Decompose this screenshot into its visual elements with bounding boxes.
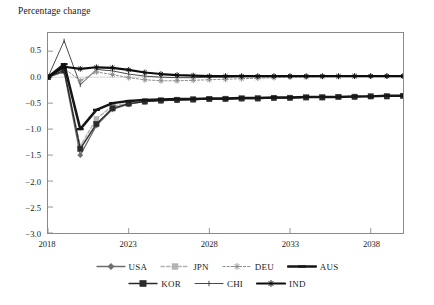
data-point-marker xyxy=(206,97,213,99)
legend-item-ind[interactable]: IND xyxy=(256,278,306,289)
data-point-marker xyxy=(142,70,148,76)
data-point-marker xyxy=(336,73,342,79)
y-axis-tick-labels: 0.50.0−0.5−1.0−1.5−2.0−2.5−3.0 xyxy=(0,32,41,234)
x-axis-tick-label: 2023 xyxy=(120,239,137,249)
data-point-marker xyxy=(298,265,306,267)
y-axis-tick-label: −2.0 xyxy=(25,177,41,187)
data-point-marker xyxy=(351,95,358,97)
data-point-marker xyxy=(319,73,325,79)
legend-row-1: USAJPNDEUAUS xyxy=(0,258,434,275)
legend-label: IND xyxy=(289,279,306,289)
legend-label: AUS xyxy=(320,262,339,272)
data-point-marker xyxy=(158,78,164,84)
x-axis-tick-labels: 20182023202820332038 xyxy=(47,239,404,253)
data-point-marker xyxy=(110,72,116,78)
data-point-marker xyxy=(174,98,181,100)
legend-swatch-ind xyxy=(256,278,286,289)
data-point-marker xyxy=(222,97,229,99)
legend-label: USA xyxy=(129,262,148,272)
data-point-marker xyxy=(367,95,374,97)
data-point-marker xyxy=(107,263,113,269)
data-point-marker xyxy=(303,73,309,79)
x-axis-tick-label: 2028 xyxy=(201,239,218,249)
legend-swatch-aus xyxy=(287,261,317,272)
chart-figure: Percentage change 0.50.0−0.5−1.0−1.5−2.0… xyxy=(0,0,434,305)
data-point-marker xyxy=(268,280,275,287)
y-axis-tick-label: −0.5 xyxy=(25,98,41,108)
legend-swatch-chi xyxy=(194,278,224,289)
data-point-marker xyxy=(287,73,293,79)
data-point-marker xyxy=(319,96,326,98)
legend-item-usa[interactable]: USA xyxy=(96,261,148,272)
legend-label: JPN xyxy=(193,262,209,272)
legend-item-aus[interactable]: AUS xyxy=(287,261,339,272)
data-point-marker xyxy=(190,98,197,100)
data-point-marker xyxy=(78,146,83,151)
data-point-marker xyxy=(140,280,146,286)
data-point-marker xyxy=(206,73,212,79)
data-point-marker xyxy=(142,77,148,83)
legend-swatch-deu xyxy=(222,261,252,272)
data-point-marker xyxy=(352,73,358,79)
data-point-marker xyxy=(303,96,310,98)
legend-swatch-jpn xyxy=(160,261,190,272)
data-point-marker xyxy=(233,263,240,270)
data-point-marker xyxy=(93,109,100,111)
series-usa xyxy=(48,69,403,157)
data-point-marker xyxy=(223,73,229,79)
legend-label: DEU xyxy=(255,262,274,272)
data-point-marker xyxy=(110,106,115,111)
data-point-marker xyxy=(400,73,403,79)
legend-item-deu[interactable]: DEU xyxy=(222,261,274,272)
data-point-marker xyxy=(94,116,99,121)
data-point-marker xyxy=(239,73,245,79)
legend-label: CHI xyxy=(227,279,243,289)
x-axis-tick-label: 2038 xyxy=(363,239,380,249)
data-point-marker xyxy=(78,152,83,157)
data-point-marker xyxy=(190,73,196,79)
y-axis-tick-label: −1.5 xyxy=(25,150,41,160)
legend-item-chi[interactable]: CHI xyxy=(194,278,243,289)
data-point-marker xyxy=(271,96,278,98)
data-point-marker xyxy=(126,67,132,73)
data-point-marker xyxy=(400,95,403,97)
data-point-marker xyxy=(141,99,148,101)
data-point-marker xyxy=(109,102,116,104)
data-point-marker xyxy=(126,75,132,81)
x-axis-tick-label: 2033 xyxy=(282,239,299,249)
legend-label: KOR xyxy=(161,279,181,289)
x-axis-tick-label: 2018 xyxy=(38,239,55,249)
data-point-marker xyxy=(383,95,390,97)
legend-swatch-usa xyxy=(96,261,126,272)
legend-row-2: KORCHIIND xyxy=(0,275,434,292)
plot-area xyxy=(47,32,404,234)
data-point-marker xyxy=(77,66,83,72)
series-line xyxy=(48,72,403,155)
data-point-marker xyxy=(384,73,390,79)
data-point-marker xyxy=(335,96,342,98)
data-point-marker xyxy=(61,64,67,70)
data-point-marker xyxy=(94,121,99,126)
data-point-marker xyxy=(110,65,116,71)
data-point-marker xyxy=(125,100,132,102)
chart-title: Percentage change xyxy=(18,6,91,16)
y-axis-tick-label: −3.0 xyxy=(25,229,41,239)
legend-item-jpn[interactable]: JPN xyxy=(160,261,209,272)
data-point-marker xyxy=(172,264,178,270)
data-point-marker xyxy=(77,128,84,130)
data-point-marker xyxy=(158,71,164,77)
data-point-marker xyxy=(368,73,374,79)
plot-svg xyxy=(48,33,403,233)
chart-legend: USAJPNDEUAUSKORCHIIND xyxy=(0,258,434,292)
data-point-marker xyxy=(77,78,83,84)
series-ind xyxy=(48,64,403,80)
data-point-marker xyxy=(238,97,245,99)
legend-item-kor[interactable]: KOR xyxy=(128,278,181,289)
y-axis-tick-label: 0.0 xyxy=(30,72,41,82)
legend-swatch-kor xyxy=(128,278,158,289)
y-axis-tick-label: −1.0 xyxy=(25,124,41,134)
data-point-marker xyxy=(287,96,294,98)
data-point-marker xyxy=(174,78,180,84)
y-axis-tick-label: −2.5 xyxy=(25,203,41,213)
series-line xyxy=(48,70,403,148)
